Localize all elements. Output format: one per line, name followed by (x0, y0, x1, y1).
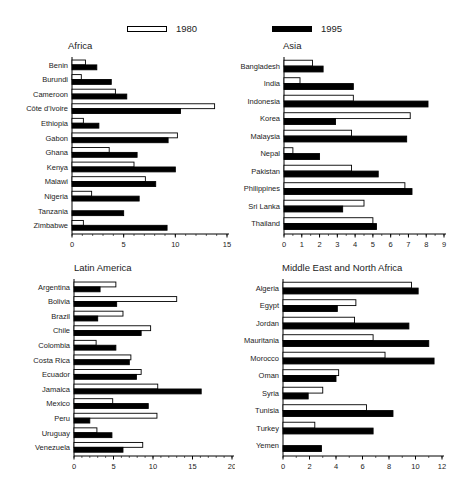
x-tick-label: 0 (282, 240, 286, 249)
bar-1980-Cameroon (72, 89, 115, 94)
category-label: Argentina (38, 283, 71, 292)
bar-1995-Yemen (283, 446, 321, 452)
bar-1980-Mauritania (283, 335, 373, 341)
bar-1980-India (284, 78, 300, 84)
bar-1980-Mexico (74, 399, 113, 404)
x-tick-label: 9 (442, 240, 446, 249)
category-label: Colombia (38, 341, 71, 350)
category-label: Korea (260, 114, 281, 123)
x-tick-label: 0 (70, 240, 74, 249)
bar-1995-Nepal (284, 154, 320, 160)
x-tick-label: 6 (360, 462, 364, 471)
category-label: Pakistan (251, 167, 280, 176)
x-tick-label: 3 (335, 240, 339, 249)
bar-1980-Bolivia (74, 297, 177, 302)
category-label: Ethiopia (41, 119, 69, 128)
category-label: Côte d'Ivoire (26, 104, 68, 113)
bar-1995-Côte d'Ivoire (72, 109, 181, 114)
category-label: Zimbabwe (33, 221, 68, 230)
category-label: Syria (262, 389, 280, 398)
category-label: Malawi (45, 177, 69, 186)
category-label: Kenya (47, 163, 69, 172)
category-label: Yemen (256, 441, 279, 450)
chart-asia: Asia 0123456789BangladeshIndiaIndonesiaK… (235, 40, 470, 258)
category-label: Egypt (260, 301, 280, 310)
bar-1980-Ghana (72, 148, 109, 153)
category-label: Thailand (251, 219, 280, 228)
bar-1980-Peru (74, 413, 157, 418)
chart-middle-east-north-africa: Middle East and North Africa 024681012Al… (235, 262, 470, 480)
bar-1980-Thailand (284, 218, 373, 224)
bar-1980-Philippines (284, 183, 405, 189)
bar-1995-Burundi (72, 79, 111, 84)
category-label: Philippines (244, 184, 281, 193)
x-tick-label: 0 (72, 462, 76, 471)
category-label: Nigeria (44, 192, 69, 201)
bar-1995-Syria (283, 393, 308, 399)
chart-legend: 1980 1995 (0, 23, 470, 39)
bar-1980-Jamaica (74, 384, 158, 389)
legend-label-1980: 1980 (176, 23, 197, 34)
bar-1980-Argentina (74, 282, 116, 287)
bar-1995-Chile (74, 331, 141, 336)
bar-1995-Brazil (74, 316, 98, 321)
category-label: Peru (54, 414, 70, 423)
category-label: Sri Lanka (248, 202, 281, 211)
category-label: India (264, 79, 281, 88)
bar-1995-Tanzania (72, 211, 124, 216)
category-label: Brazil (51, 312, 70, 321)
category-label: Uruguay (42, 429, 71, 438)
bar-1995-Ethiopia (72, 123, 99, 128)
bar-1980-Algeria (283, 282, 412, 288)
bar-1995-Malawi (72, 182, 156, 187)
category-label: Venezuela (35, 443, 71, 452)
x-tick-label: 10 (411, 462, 419, 471)
x-tick-label: 4 (334, 462, 338, 471)
category-label: Indonesia (247, 97, 280, 106)
bar-1980-Burundi (72, 75, 81, 80)
chart-svg-asia: 0123456789BangladeshIndiaIndonesiaKoreaM… (235, 55, 470, 253)
bar-1980-Nigeria (72, 191, 92, 196)
category-label: Benin (49, 61, 68, 70)
bar-1995-Argentina (74, 287, 100, 292)
category-label: Nepal (260, 149, 280, 158)
x-tick-label: 5 (111, 462, 115, 471)
category-label: Ghana (45, 148, 68, 157)
bar-1995-Sri Lanka (284, 206, 343, 212)
bar-1980-Côte d'Ivoire (72, 104, 215, 109)
category-label: Bangladesh (240, 62, 280, 71)
bar-1980-Bangladesh (284, 60, 312, 66)
bar-1995-Gabon (72, 138, 168, 143)
x-tick-label: 10 (171, 240, 179, 249)
bar-1980-Colombia (74, 340, 96, 345)
category-label: Tanzania (38, 207, 69, 216)
bar-1995-Uruguay (74, 433, 112, 438)
legend-item-1980: 1980 (127, 23, 197, 34)
bar-1980-Gabon (72, 133, 177, 138)
x-tick-label: 20 (228, 462, 235, 471)
chart-title-latin-america: Latin America (74, 262, 132, 273)
x-tick-label: 2 (317, 240, 321, 249)
category-label: Jamaica (42, 385, 71, 394)
bar-1995-Malaysia (284, 136, 407, 142)
legend-label-1995: 1995 (321, 23, 342, 34)
x-tick-label: 15 (188, 462, 196, 471)
bar-1980-Tunisia (283, 405, 366, 411)
x-tick-label: 12 (438, 462, 446, 471)
bar-1980-Korea (284, 113, 410, 119)
chart-africa: Africa 051015BeninBurundiCameroonCôte d'… (0, 40, 235, 258)
bar-1995-Bangladesh (284, 66, 323, 72)
category-label: Mauritania (244, 336, 280, 345)
bar-1980-Uruguay (74, 428, 97, 433)
bar-1980-Egypt (283, 300, 356, 306)
bar-1995-Oman (283, 376, 336, 382)
bar-1980-Ethiopia (72, 118, 83, 123)
chart-title-africa: Africa (68, 40, 92, 51)
bar-1995-Benin (72, 65, 97, 70)
legend-item-1995: 1995 (272, 23, 342, 34)
bar-1995-Mexico (74, 404, 148, 409)
bar-1980-Benin (72, 60, 85, 65)
bar-1995-Mauritania (283, 341, 429, 347)
bar-1995-Jordan (283, 323, 409, 329)
bar-1980-Brazil (74, 311, 123, 316)
